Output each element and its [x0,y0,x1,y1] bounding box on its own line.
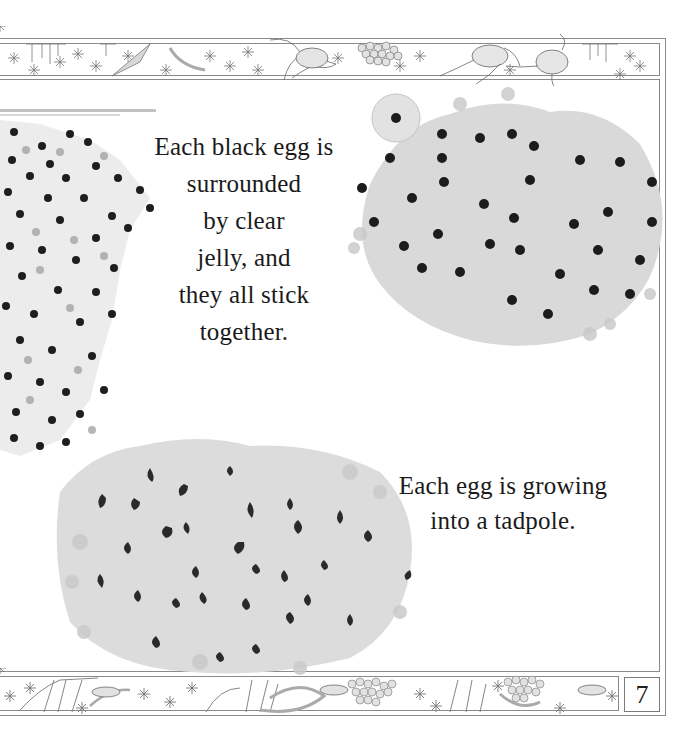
caption-line: jelly, and [122,239,366,276]
caption-line: together. [122,313,366,350]
frogspawn-cluster-icon [340,84,670,364]
caption-line: by clear [122,202,366,239]
page-number-text: 7 [636,680,649,710]
caption-line: Each black egg is [122,128,366,165]
caption-tadpole-growth: Each egg is growing into a tadpole. [378,468,628,538]
caption-line: surrounded [122,165,366,202]
page-number: 7 [624,677,660,712]
tadpole-spawn-illustration [50,432,430,677]
pond-life-border-icon [0,26,660,86]
caption-egg-description: Each black egg is surrounded by clear je… [122,128,366,350]
caption-line: into a tadpole. [378,503,628,538]
caption-line: Each egg is growing [378,468,628,503]
surface-streak-icon [0,107,160,119]
right-frogspawn-illustration [340,84,670,364]
developing-tadpoles-icon [50,432,430,677]
caption-line: they all stick [122,276,366,313]
bottom-border-illustration [0,668,618,720]
reeds-fish-border-icon [0,668,618,720]
water-surface-shadow [0,104,160,116]
top-border-illustration [0,26,660,86]
frame-line-bottom-band-right [618,676,619,711]
